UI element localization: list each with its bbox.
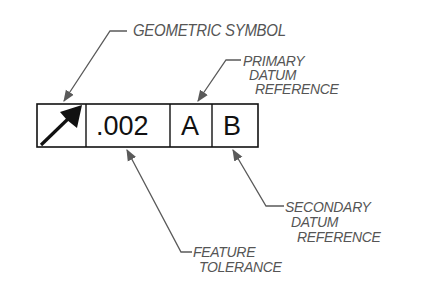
label-secondary-line3: REFERENCE xyxy=(297,230,381,245)
leader-secondary-datum xyxy=(233,150,284,206)
leader-feature-tolerance xyxy=(127,150,192,252)
label-geometric-symbol: GEOMETRIC SYMBOL xyxy=(133,24,286,39)
label-primary-line3: REFERENCE xyxy=(255,82,339,97)
label-secondary-line1: SECONDARY xyxy=(285,200,370,215)
angularity-arrow-icon xyxy=(41,105,82,145)
label-secondary-line2: DATUM xyxy=(291,215,338,230)
label-feature-line1: FEATURE xyxy=(193,245,255,260)
label-feature-line2: TOLERANCE xyxy=(199,260,282,275)
leader-geometric-symbol xyxy=(64,31,127,101)
primary-datum-letter: A xyxy=(181,113,199,140)
leader-primary-datum xyxy=(198,60,241,101)
secondary-datum-letter: B xyxy=(223,113,241,140)
feature-tolerance-value: .002 xyxy=(96,113,149,140)
